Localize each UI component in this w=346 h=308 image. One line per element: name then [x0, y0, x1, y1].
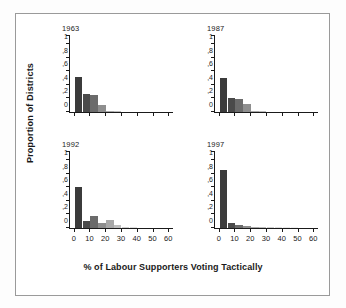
- x-tick: [250, 229, 251, 232]
- x-tick-label: 30: [114, 234, 128, 243]
- x-tick-label: 10: [82, 234, 96, 243]
- x-tick: [313, 113, 314, 116]
- bar: [283, 227, 290, 228]
- x-tick: [219, 229, 220, 232]
- y-tick-label: ,8: [199, 47, 213, 54]
- bar: [90, 95, 97, 112]
- y-tick: [66, 200, 69, 201]
- panel-title: 1963: [62, 24, 80, 33]
- y-tick: [211, 111, 214, 112]
- x-tick: [121, 113, 122, 116]
- x-tick: [250, 113, 251, 116]
- bar: [98, 223, 105, 228]
- panel-title: 1997: [207, 140, 225, 149]
- y-tick-label: 0: [199, 101, 213, 108]
- bar: [243, 104, 250, 112]
- y-tick-label: 0: [54, 217, 68, 224]
- x-tick: [168, 229, 169, 232]
- x-tick-label: 40: [275, 234, 289, 243]
- x-tick: [282, 113, 283, 116]
- bar: [251, 111, 258, 112]
- y-tick: [66, 213, 69, 214]
- y-tick-label: ,8: [54, 163, 68, 170]
- bar: [83, 94, 90, 112]
- x-axis-title: % of Labour Supporters Voting Tactically: [0, 262, 346, 272]
- y-tick: [211, 227, 214, 228]
- y-axis-line: [69, 35, 70, 113]
- y-tick: [211, 97, 214, 98]
- y-tick: [66, 70, 69, 71]
- x-tick: [168, 113, 169, 116]
- x-tick: [266, 113, 267, 116]
- y-tick-label: ,2: [199, 203, 213, 210]
- bar: [75, 187, 82, 228]
- x-tick: [105, 229, 106, 232]
- bar: [251, 227, 258, 228]
- bar: [243, 226, 250, 228]
- x-tick: [121, 229, 122, 232]
- y-tick: [66, 35, 69, 36]
- x-tick: [137, 229, 138, 232]
- y-tick-label: ,8: [54, 47, 68, 54]
- x-tick: [313, 229, 314, 232]
- bar: [228, 98, 235, 112]
- x-tick-label: 50: [146, 234, 160, 243]
- panel-title: 1992: [62, 140, 80, 149]
- y-tick-label: ,4: [54, 74, 68, 81]
- y-tick: [211, 84, 214, 85]
- y-tick-label: 0: [199, 217, 213, 224]
- y-tick-label: ,4: [54, 190, 68, 197]
- bar: [90, 216, 97, 228]
- y-tick: [66, 57, 69, 58]
- plot-area: 0,2,4,6,810102030405060: [69, 151, 173, 229]
- bar: [267, 227, 274, 228]
- y-tick: [211, 200, 214, 201]
- y-tick-label: ,8: [199, 163, 213, 170]
- x-tick: [298, 229, 299, 232]
- x-tick-label: 50: [291, 234, 305, 243]
- y-tick-label: ,4: [199, 74, 213, 81]
- x-tick: [234, 113, 235, 116]
- y-axis-title: Proportion of Districts: [25, 38, 35, 188]
- y-tick: [211, 186, 214, 187]
- x-tick: [266, 229, 267, 232]
- y-tick-label: ,6: [199, 60, 213, 67]
- x-tick-label: 20: [98, 234, 112, 243]
- y-axis-line: [214, 35, 215, 113]
- x-tick: [89, 113, 90, 116]
- bar: [114, 225, 121, 228]
- bar: [106, 111, 113, 112]
- y-axis-line: [69, 151, 70, 229]
- y-tick: [66, 151, 69, 152]
- x-tick-label: 0: [67, 234, 81, 243]
- y-tick: [66, 43, 69, 44]
- y-tick: [211, 173, 214, 174]
- bar: [106, 220, 113, 228]
- y-tick: [211, 57, 214, 58]
- y-tick: [66, 227, 69, 228]
- x-tick: [153, 113, 154, 116]
- bar: [275, 227, 282, 228]
- panel-title: 1987: [207, 24, 225, 33]
- y-tick-label: 0: [54, 101, 68, 108]
- x-tick: [153, 229, 154, 232]
- plot-area: 0,2,4,6,810102030405060: [214, 151, 318, 229]
- plot-area: 0,2,4,6,81: [214, 35, 318, 113]
- y-tick-label: ,6: [199, 176, 213, 183]
- y-tick: [66, 111, 69, 112]
- y-tick: [211, 35, 214, 36]
- panel-1997: 1997 0,2,4,6,810102030405060: [192, 140, 322, 245]
- x-tick: [89, 229, 90, 232]
- figure-canvas: Proportion of Districts % of Labour Supp…: [0, 0, 346, 308]
- plot-area: 0,2,4,6,81: [69, 35, 173, 113]
- x-tick: [105, 113, 106, 116]
- bar: [122, 227, 129, 228]
- y-tick: [211, 70, 214, 71]
- x-tick-label: 40: [130, 234, 144, 243]
- y-tick-label: ,6: [54, 176, 68, 183]
- x-tick-label: 30: [259, 234, 273, 243]
- bar: [259, 111, 266, 112]
- bar: [220, 170, 227, 228]
- y-tick: [211, 151, 214, 152]
- x-tick: [282, 229, 283, 232]
